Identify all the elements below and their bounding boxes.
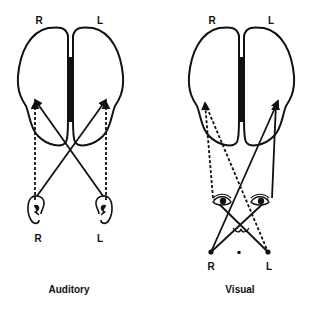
auditory-corpus-callosum [69, 57, 73, 122]
visual-caption: Visual [225, 284, 254, 295]
left-ear-icon [96, 196, 112, 223]
auditory-right-hemisphere-label: R [35, 15, 43, 26]
visual-dashed-cross-path [205, 103, 268, 252]
auditory-caption: Auditory [48, 284, 90, 295]
lateralization-diagram: R L R L Auditory [0, 0, 312, 311]
visual-left-eye-ipsilateral-path [272, 103, 276, 198]
right-field-point [208, 249, 213, 254]
visual-right-field-label: R [207, 261, 215, 272]
visual-left-field-label: L [266, 261, 272, 272]
visual-corpus-callosum [240, 57, 244, 122]
visual-right-hemisphere-label: R [208, 15, 216, 26]
auditory-right-hemisphere [18, 27, 68, 145]
visual-left-hemisphere-label: L [268, 15, 274, 26]
visual-right-hemisphere [189, 27, 239, 145]
auditory-right-ear-label: R [34, 233, 42, 244]
auditory-panel: R L R L Auditory [18, 15, 123, 295]
auditory-left-hemisphere-label: L [97, 15, 103, 26]
auditory-left-hemisphere [73, 27, 123, 145]
right-ear-icon [28, 196, 44, 223]
visual-brain-outline [189, 27, 294, 145]
visual-left-hemisphere [244, 27, 294, 145]
fixation-marker [238, 251, 241, 254]
auditory-brain-outline [18, 27, 123, 145]
auditory-left-ear-label: L [97, 233, 103, 244]
left-eye-icon [251, 194, 269, 205]
visual-panel: R L [189, 15, 294, 295]
right-eye-icon [213, 194, 231, 205]
left-field-point [265, 249, 270, 254]
